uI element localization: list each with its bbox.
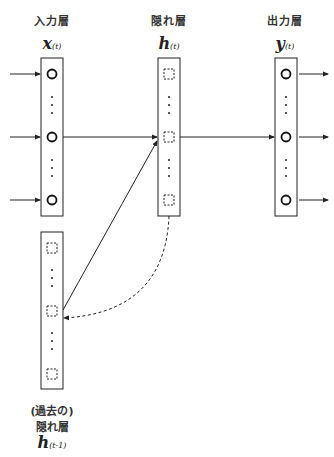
past-hidden-variable-label: h(t-1) <box>17 433 87 452</box>
hidden-layer-box <box>158 58 180 216</box>
past-hidden-title-line1: (過去の) <box>17 402 87 418</box>
past-hidden-title-line2: 隠れ層 <box>17 418 87 434</box>
past-hidden-symbol: h <box>38 433 50 452</box>
output-arrows <box>299 74 328 200</box>
input-arrows <box>10 74 40 200</box>
output-layer-box <box>275 58 297 216</box>
rnn-diagram <box>0 0 334 457</box>
hidden-to-past-dashed-arrow <box>64 216 169 318</box>
past-hidden-layer-box <box>41 232 63 389</box>
past-to-hidden-arrow <box>63 141 157 310</box>
past-hidden-subscript: (t-1) <box>49 441 66 450</box>
input-layer-box <box>41 58 63 216</box>
